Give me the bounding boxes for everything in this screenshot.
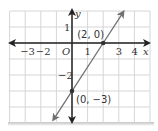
point-label: (0, −3) [76,94,111,105]
svg-text:−2: −2 [36,46,51,57]
data-point [70,89,75,94]
svg-text:−3: −3 [20,46,35,57]
svg-text:4: 4 [131,46,137,57]
svg-text:3: 3 [116,46,122,57]
graph-line-lower [53,43,103,120]
svg-text:−2: −2 [58,70,73,81]
y-axis-label: y [74,8,81,19]
svg-text:1: 1 [64,22,70,33]
coordinate-graph: −3−21341−2 y x O (2, 0)(0, −3) [0,0,158,131]
svg-text:1: 1 [85,46,91,57]
point-label: (2, 0) [77,29,104,40]
x-axis-label: x [143,46,149,57]
grid-lines [10,11,150,123]
origin-label: O [62,46,70,57]
data-point [101,41,106,46]
